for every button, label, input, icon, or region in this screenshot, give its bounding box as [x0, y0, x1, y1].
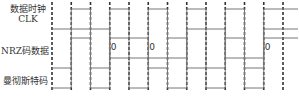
- bit-zero-label: 0: [265, 42, 271, 52]
- bit-zero-label: 0: [111, 42, 117, 52]
- bit-zero-label: 0: [149, 42, 155, 52]
- timing-diagram: 000: [0, 0, 299, 97]
- manchester-waveform: [52, 38, 283, 68]
